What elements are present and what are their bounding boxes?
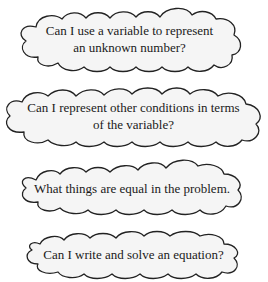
cloud-2: Can I represent other conditions in term…: [2, 84, 265, 148]
cloud-1: Can I use a variable to represent an unk…: [14, 5, 245, 73]
cloud-2-text: Can I represent other conditions in term…: [2, 99, 265, 133]
cloud-3: What things are equal in the problem.: [14, 158, 250, 218]
cloud-4-text: Can I write and solve an equation?: [22, 246, 245, 263]
cloud-4: Can I write and solve an equation?: [22, 228, 245, 280]
cloud-1-text: Can I use a variable to represent an unk…: [14, 22, 245, 56]
cloud-3-text: What things are equal in the problem.: [14, 180, 250, 197]
